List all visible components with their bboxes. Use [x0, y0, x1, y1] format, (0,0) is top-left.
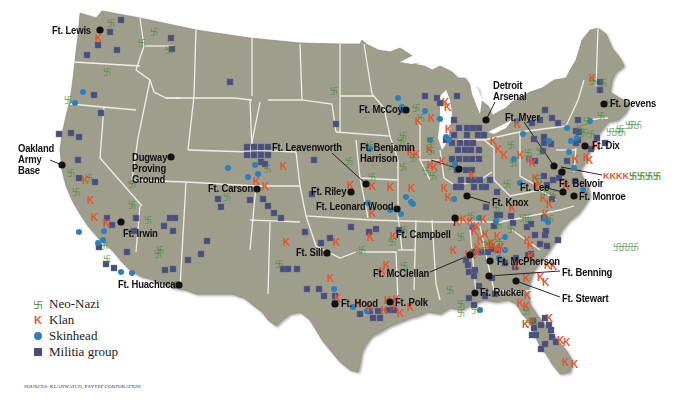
base-dot: [558, 168, 565, 175]
base-label: DetroitArsenal: [493, 80, 526, 102]
swastika-icon: 卐: [33, 299, 43, 309]
skinhead-marker: [520, 131, 526, 137]
base-label-line: Ft. Benning: [562, 267, 612, 278]
militia-marker: [472, 267, 478, 273]
skinhead-marker: [118, 269, 124, 275]
base-dot: [455, 165, 462, 172]
neo-nazi-marker: 卐: [507, 225, 515, 234]
base-label: Ft. Sill: [296, 247, 323, 258]
militia-marker: [357, 311, 363, 317]
neo-nazi-marker: 卐: [457, 309, 465, 318]
klan-marker: K: [103, 218, 111, 229]
base-label-line: Ft. Polk: [395, 297, 428, 308]
base-dot: [581, 142, 588, 149]
militia-marker: [124, 249, 130, 255]
militia-marker: [538, 322, 544, 328]
klan-marker: K: [471, 226, 479, 237]
klan-k-icon: K: [33, 315, 43, 325]
neo-nazi-marker: 卐: [507, 141, 515, 150]
militia-marker: [597, 87, 603, 93]
legend: 卐 Neo-Nazi K Klan Skinhead Militia group: [33, 296, 118, 360]
klan-marker: K: [571, 359, 579, 370]
base-label-line: Ft. Leonard Wood: [316, 201, 393, 212]
militia-marker: [321, 293, 327, 299]
militia-marker: [265, 144, 271, 150]
base-dot: [482, 116, 489, 123]
militia-marker: [487, 177, 493, 183]
base-label-line: Ft. Riley: [311, 186, 346, 197]
base-label-line: Ft. Myer: [505, 112, 540, 123]
neo-nazi-marker: 卐: [485, 240, 493, 249]
base-label-line: Ft. Monroe: [579, 191, 626, 202]
neo-nazi-marker: 卐: [471, 306, 479, 315]
militia-marker: [457, 140, 463, 146]
klan-marker: K: [87, 195, 95, 206]
base-label: Ft. McPherson: [497, 256, 560, 267]
overflow-klan: KKKK: [603, 171, 629, 181]
base-label-line: Base: [18, 165, 54, 176]
klan-marker: K: [444, 102, 452, 113]
base-dot: [485, 272, 492, 279]
militia-marker: [98, 110, 104, 116]
militia-marker: [111, 265, 117, 271]
base-label-line: Ft. Dix: [592, 140, 620, 151]
base-label: Ft. Benning: [562, 267, 612, 278]
base-label: Ft. Leavenworth: [272, 142, 342, 153]
neo-nazi-marker: 卐: [427, 147, 435, 156]
neo-nazi-marker: 卐: [103, 68, 111, 77]
neo-nazi-marker: 卐: [589, 77, 597, 86]
militia-marker: [422, 93, 428, 99]
klan-marker: K: [562, 357, 570, 368]
klan-marker: K: [583, 152, 591, 163]
militia-marker: [227, 79, 233, 85]
militia-marker: [56, 131, 62, 137]
base-label: Ft. Monroe: [579, 191, 626, 202]
klan-marker: K: [387, 182, 395, 193]
base-dot: [451, 214, 458, 221]
skinhead-marker: [331, 286, 337, 292]
militia-marker: [541, 134, 547, 140]
klan-marker: K: [445, 192, 453, 203]
militia-marker: [464, 140, 470, 146]
neo-nazi-marker: 卐: [100, 242, 108, 251]
militia-marker: [333, 121, 339, 127]
militia-marker: [476, 125, 482, 131]
militia-marker: [278, 215, 284, 221]
base-label: OaklandArmyBase: [18, 143, 54, 176]
neo-nazi-marker: 卐: [150, 28, 158, 37]
neo-nazi-marker: 卐: [524, 149, 532, 158]
militia-marker: [244, 144, 250, 150]
base-label: Ft. BenjaminHarrison: [360, 142, 415, 164]
base-label: Ft. Lewis: [52, 25, 91, 36]
base-label-line: Ft. McPherson: [497, 256, 560, 267]
skinhead-marker: [395, 95, 401, 101]
militia-marker: [470, 125, 476, 131]
klan-marker: K: [381, 305, 389, 316]
militia-marker: [555, 237, 561, 243]
base-label: Ft. Knox: [492, 197, 528, 208]
legend-item-militia: Militia group: [33, 344, 118, 360]
base-dot: [362, 180, 369, 187]
neo-nazi-marker: 卐: [417, 114, 425, 123]
militia-marker: [302, 229, 308, 235]
militia-marker: [348, 224, 354, 230]
neo-nazi-marker: 卐: [478, 247, 486, 256]
base-dot: [167, 153, 174, 160]
militia-marker: [198, 251, 204, 257]
base-dot: [600, 100, 607, 107]
militia-marker: [476, 147, 482, 153]
militia-marker: [370, 315, 376, 321]
base-label: Ft. Stewart: [562, 293, 608, 304]
militia-marker: [204, 238, 210, 244]
skinhead-marker: [446, 137, 452, 143]
skinhead-marker: [80, 89, 86, 95]
skinhead-marker: [564, 125, 570, 131]
legend-label: Neo-Nazi: [49, 296, 100, 312]
base-label: Ft. Riley: [311, 186, 346, 197]
base-label-line: Ft. Lee: [520, 182, 549, 193]
legend-label: Klan: [49, 312, 74, 328]
base-dot: [58, 161, 65, 168]
neo-nazi-marker: 卐: [530, 317, 538, 326]
base-label-line: Ft. Leavenworth: [272, 142, 342, 153]
base-label: Ft. Dix: [592, 140, 620, 151]
